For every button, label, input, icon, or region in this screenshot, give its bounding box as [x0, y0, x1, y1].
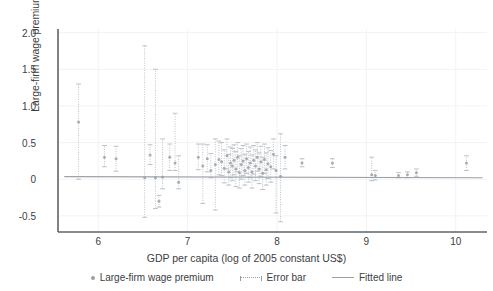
legend-item-fitted-line: Fitted line: [332, 272, 402, 283]
grid-lines: [58, 29, 487, 232]
point-marker-icon: [91, 276, 95, 280]
fitted-line: [64, 177, 482, 178]
axis-lines: [58, 29, 487, 232]
x-tick-label: 6: [83, 236, 113, 247]
data-points: [77, 121, 468, 203]
chart-legend: Large-firm wage premium Error bar Fitted…: [0, 272, 493, 283]
x-tick-label: 8: [262, 236, 292, 247]
legend-label-points: Large-firm wage premium: [100, 272, 214, 283]
x-tick-label: 9: [351, 236, 381, 247]
x-tick-label: 7: [173, 236, 203, 247]
fitted-line-icon: [332, 277, 354, 278]
legend-item-points: Large-firm wage premium: [91, 272, 214, 283]
x-tick-label: 10: [441, 236, 471, 247]
legend-label-fitted-line: Fitted line: [359, 272, 402, 283]
legend-item-errorbar: Error bar: [240, 272, 306, 283]
error-bars: [76, 46, 469, 222]
legend-label-errorbar: Error bar: [267, 272, 306, 283]
scatter-plot-figure: [0, 0, 493, 291]
error-bar-icon: [240, 277, 262, 279]
